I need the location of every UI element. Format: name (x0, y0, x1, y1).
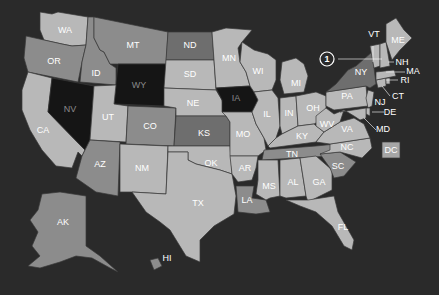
label-IN: IN (285, 108, 294, 118)
label-NV: NV (64, 104, 77, 114)
label-CA: CA (37, 125, 50, 135)
label-NM: NM (135, 163, 149, 173)
label-WV: WV (320, 119, 335, 129)
label-OR: OR (47, 56, 61, 66)
label-TN: TN (286, 149, 298, 159)
label-ND: ND (184, 40, 197, 50)
label-OH: OH (306, 103, 320, 113)
label-CO: CO (143, 121, 157, 131)
label-SD: SD (184, 69, 197, 79)
label-MA: MA (406, 66, 420, 76)
label-VA: VA (341, 124, 352, 134)
label-FL: FL (338, 222, 349, 232)
label-NC: NC (341, 142, 354, 152)
label-WA: WA (58, 25, 72, 35)
label-TX: TX (192, 198, 204, 208)
label-MI: MI (291, 78, 301, 88)
state-MS[interactable] (256, 160, 280, 200)
label-NY: NY (355, 67, 368, 77)
label-OK: OK (204, 158, 217, 168)
label-NJ: NJ (375, 97, 386, 107)
label-PA: PA (341, 91, 352, 101)
label-ME: ME (391, 35, 405, 45)
label-MT: MT (127, 40, 140, 50)
label-MN: MN (222, 53, 236, 63)
label-DE: DE (384, 107, 397, 117)
label-RI: RI (401, 75, 410, 85)
label-UT: UT (102, 112, 114, 122)
label-MD: MD (376, 124, 390, 134)
label-WI: WI (253, 66, 264, 76)
label-AR: AR (239, 163, 252, 173)
label-AL: AL (287, 177, 298, 187)
label-AK: AK (57, 217, 69, 227)
state-RI[interactable] (386, 78, 390, 84)
label-GA: GA (312, 177, 325, 187)
us-map: 1 WA OR CA ID NV MT WY UT AZ CO NM ND SD… (0, 0, 439, 295)
label-IA: IA (232, 93, 241, 103)
label-KY: KY (296, 131, 308, 141)
label-HI: HI (163, 253, 172, 263)
label-MS: MS (262, 181, 276, 191)
label-DC: DC (385, 145, 398, 155)
label-NH: NH (396, 57, 409, 67)
label-VT: VT (368, 29, 380, 39)
label-MO: MO (236, 129, 251, 139)
callout-1: 1 (320, 52, 334, 66)
callout-number: 1 (324, 54, 329, 64)
label-CT: CT (392, 91, 404, 101)
label-AZ: AZ (94, 159, 106, 169)
label-SC: SC (332, 161, 345, 171)
us-map-svg: 1 WA OR CA ID NV MT WY UT AZ CO NM ND SD… (0, 0, 439, 295)
label-NE: NE (187, 98, 200, 108)
label-LA: LA (241, 195, 252, 205)
label-ID: ID (92, 68, 102, 78)
label-IL: IL (263, 109, 271, 119)
label-KS: KS (198, 128, 210, 138)
label-WY: WY (132, 80, 147, 90)
